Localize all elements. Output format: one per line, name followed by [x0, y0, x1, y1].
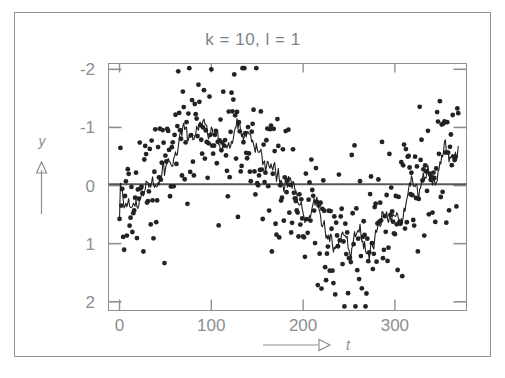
scatter-point — [365, 236, 370, 241]
scatter-point — [261, 142, 266, 147]
scatter-point — [309, 157, 314, 162]
scatter-point — [256, 183, 261, 188]
scatter-point — [296, 234, 301, 239]
scatter-point — [252, 169, 257, 174]
scatter-point — [291, 147, 296, 152]
scatter-point — [176, 69, 181, 74]
scatter-point — [343, 221, 348, 226]
scatter-point — [197, 99, 202, 104]
scatter-point — [400, 274, 405, 279]
scatter-point — [247, 169, 252, 174]
scatter-point — [192, 102, 197, 107]
scatter-point — [342, 304, 347, 309]
scatter-point — [281, 147, 286, 152]
scatter-point — [245, 156, 250, 161]
scatter-point — [366, 259, 371, 264]
scatter-point — [323, 265, 328, 270]
scatter-point — [356, 236, 361, 241]
scatter-point — [202, 88, 207, 93]
scatter-point — [218, 117, 223, 122]
scatter-point — [235, 110, 240, 115]
scatter-point — [172, 133, 177, 138]
scatter-point — [124, 233, 129, 238]
scatter-point — [150, 198, 155, 203]
scatter-point — [378, 200, 383, 205]
scatter-point — [184, 120, 189, 125]
scatter-point — [361, 219, 366, 224]
x-tick-label: 300 — [381, 316, 409, 335]
scatter-point — [135, 236, 140, 241]
scatter-point — [295, 210, 300, 215]
scatter-point — [389, 185, 394, 190]
scatter-point — [199, 137, 204, 142]
scatter-point — [341, 239, 346, 244]
scatter-point — [422, 233, 427, 238]
scatter-point — [407, 165, 412, 170]
scatter-point — [238, 169, 243, 174]
scatter-point — [194, 116, 199, 121]
scatter-point — [404, 147, 409, 152]
scatter-point — [177, 111, 182, 116]
scatter-point — [221, 89, 226, 94]
scatter-point — [193, 112, 198, 117]
scatter-point — [403, 226, 408, 231]
scatter-point — [419, 137, 424, 142]
scatter-point — [314, 166, 319, 171]
scatter-point — [409, 170, 414, 175]
scatter-point — [364, 291, 369, 296]
scatter-point — [209, 67, 214, 72]
y-tick-label: 2 — [86, 293, 95, 312]
scatter-point — [146, 199, 151, 204]
scatter-point — [254, 66, 259, 71]
scatter-point — [246, 125, 251, 130]
scatter-point — [319, 286, 324, 291]
scatter-point — [357, 277, 362, 282]
scatter-point — [161, 140, 166, 145]
scatter-point — [156, 145, 161, 150]
scatter-point — [299, 197, 304, 202]
scatter-point — [142, 157, 147, 162]
scatter-point — [396, 195, 401, 200]
scatter-point — [352, 143, 357, 148]
scatter-point — [273, 221, 278, 226]
scatter-point — [154, 220, 159, 225]
scatter-point — [297, 192, 302, 197]
scatter-point — [305, 230, 310, 235]
scatter-point — [313, 241, 318, 246]
scatter-point — [146, 189, 151, 194]
scatter-point — [170, 140, 175, 145]
scatter-point — [132, 208, 137, 213]
y-tick-label: 0 — [86, 177, 95, 196]
x-axis-arrow-icon — [263, 340, 330, 351]
scatter-point — [371, 251, 376, 256]
scatter-point — [385, 259, 390, 264]
scatter-point — [262, 180, 267, 185]
scatter-point — [225, 194, 230, 199]
scatter-point — [242, 66, 247, 71]
scatter-point — [166, 129, 171, 134]
scatter-point — [401, 163, 406, 168]
scatter-point — [180, 89, 185, 94]
scatter-point — [321, 178, 326, 183]
scatter-point — [236, 214, 241, 219]
scatter-point — [181, 105, 186, 110]
scatter-point — [437, 151, 442, 156]
scatter-point — [445, 120, 450, 125]
scatter-point — [373, 201, 378, 206]
scatter-point — [129, 185, 134, 190]
scatter-point — [330, 268, 335, 273]
scatter-point — [141, 249, 146, 254]
scatter-point — [431, 170, 436, 175]
scatter-point — [259, 167, 264, 172]
scatter-point — [369, 174, 374, 179]
moving-average-curve — [120, 118, 459, 259]
scatter-point — [298, 222, 303, 227]
scatter-point — [437, 99, 442, 104]
scatter-point — [406, 153, 411, 158]
plot-canvas: 210-1-2 0100200300 y t k = 10, l = 1 — [0, 0, 505, 378]
scatter-point — [307, 180, 312, 185]
scatter-point — [168, 194, 173, 199]
scatter-point — [211, 151, 216, 156]
figure-root: 210-1-2 0100200300 y t k = 10, l = 1 — [0, 0, 505, 378]
scatter-point — [348, 260, 353, 265]
